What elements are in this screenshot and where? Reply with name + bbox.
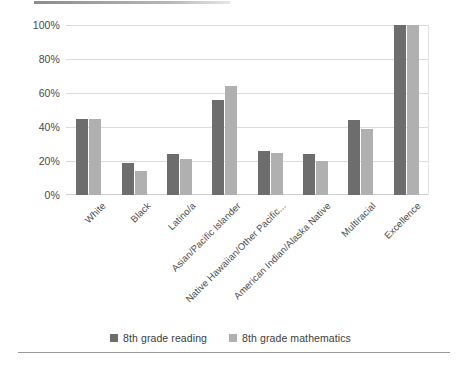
bar-group-asian-pacific-islander	[202, 25, 247, 195]
bars-layer	[66, 25, 429, 195]
bottom-divider-rule	[18, 352, 450, 353]
bar-american-indian-alaska-native-reading[interactable]	[303, 154, 315, 195]
bar-black-reading[interactable]	[122, 163, 134, 195]
legend-label-reading: 8th grade reading	[123, 332, 207, 344]
bar-group-latino	[157, 25, 202, 195]
x-tick-label-white: White	[82, 200, 107, 225]
x-tick-label-latino: Latino/a	[166, 200, 198, 232]
top-divider-rule	[34, 1, 230, 4]
x-tick-label-multiracial: Multiracial	[339, 200, 378, 239]
bar-latino-reading[interactable]	[167, 154, 179, 195]
y-tick-label-60: 60%	[39, 87, 60, 99]
bar-group-multiracial	[338, 25, 383, 195]
y-tick-label-80: 80%	[39, 53, 60, 65]
plot-wrapper: 100% 80% 60% 40% 20% 0%	[0, 25, 461, 200]
bar-native-hawaiian-mathematics[interactable]	[271, 153, 283, 196]
legend-swatch-icon-mathematics	[229, 334, 237, 342]
bar-group-black	[111, 25, 156, 195]
legend-label-mathematics: 8th grade mathematics	[242, 332, 351, 344]
bar-multiracial-mathematics[interactable]	[361, 129, 373, 195]
bar-white-mathematics[interactable]	[89, 119, 101, 196]
bar-multiracial-reading[interactable]	[348, 120, 360, 195]
x-axis-tick-labels: White Black Latino/a Asian/Pacific Islan…	[66, 200, 429, 320]
y-tick-label-0: 0%	[45, 189, 60, 201]
bar-native-hawaiian-reading[interactable]	[258, 151, 270, 195]
y-tick-label-20: 20%	[39, 155, 60, 167]
bar-chart-figure: 100% 80% 60% 40% 20% 0%	[0, 0, 461, 366]
legend-item-reading[interactable]: 8th grade reading	[110, 332, 207, 344]
y-axis-tick-labels: 100% 80% 60% 40% 20% 0%	[18, 25, 60, 195]
legend-swatch-icon-reading	[110, 334, 118, 342]
y-tick-label-40: 40%	[39, 121, 60, 133]
bar-group-native-hawaiian	[248, 25, 293, 195]
bar-group-white	[66, 25, 111, 195]
bar-white-reading[interactable]	[76, 119, 88, 196]
bar-excellence-mathematics[interactable]	[407, 25, 419, 195]
y-tick-label-100: 100%	[33, 19, 60, 31]
x-tick-label-american-indian-alaska-native: American Indian/Alaska Native	[231, 200, 332, 301]
legend-item-mathematics[interactable]: 8th grade mathematics	[229, 332, 351, 344]
x-tick-label-excellence: Excellence	[382, 200, 423, 241]
bar-black-mathematics[interactable]	[135, 171, 147, 195]
bar-excellence-reading[interactable]	[394, 25, 406, 195]
plot-area	[66, 25, 429, 195]
bar-group-excellence	[384, 25, 429, 195]
bar-asian-pacific-islander-reading[interactable]	[212, 100, 224, 195]
x-tick-label-black: Black	[128, 200, 153, 225]
bar-american-indian-alaska-native-mathematics[interactable]	[316, 161, 328, 195]
bar-latino-mathematics[interactable]	[180, 159, 192, 195]
chart-legend: 8th grade reading 8th grade mathematics	[0, 332, 461, 344]
bar-group-american-indian-alaska-native	[293, 25, 338, 195]
bar-asian-pacific-islander-mathematics[interactable]	[225, 86, 237, 195]
